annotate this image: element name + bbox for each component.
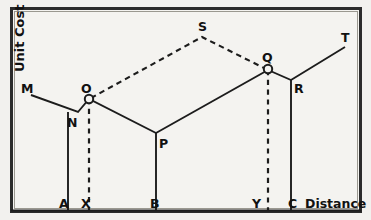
- axis-tick-label-X: X: [81, 196, 91, 211]
- axis-tick-label-Y: Y: [251, 196, 262, 211]
- point-label-Q: Q: [262, 50, 273, 65]
- point-label-S: S: [198, 19, 207, 34]
- axis-tick-label-B: B: [150, 196, 160, 211]
- axis-tick-label-C: C: [288, 196, 297, 211]
- plot-background: [12, 9, 360, 211]
- node-marker-Q: [264, 65, 272, 73]
- point-label-P: P: [159, 136, 168, 151]
- cost-distance-diagram: M N O P Q R S T A X B Y C Distance Unit …: [0, 0, 371, 220]
- point-label-M: M: [21, 81, 33, 96]
- y-axis-title: Unit Cost: [12, 5, 27, 72]
- x-axis-title: Distance: [305, 196, 366, 211]
- figure-container: M N O P Q R S T A X B Y C Distance Unit …: [0, 0, 371, 220]
- node-marker-O: [85, 95, 93, 103]
- point-label-N: N: [67, 115, 77, 130]
- axis-tick-label-A: A: [59, 196, 69, 211]
- point-label-R: R: [294, 81, 304, 96]
- point-label-T: T: [341, 30, 350, 45]
- point-label-O: O: [81, 81, 92, 96]
